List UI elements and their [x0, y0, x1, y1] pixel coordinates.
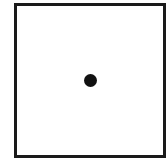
center-dot — [84, 74, 97, 87]
